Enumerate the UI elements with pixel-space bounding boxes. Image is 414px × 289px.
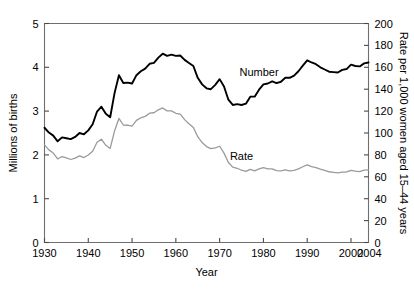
right-axis-tick-label: 20 <box>375 215 387 227</box>
left-axis-tick-label: 5 <box>32 18 38 30</box>
plot-frame <box>45 24 369 243</box>
y-axis-title: Millions of births <box>7 93 19 172</box>
x-axis-tick-label: 1960 <box>164 247 188 259</box>
right-axis-tick-label: 80 <box>375 149 387 161</box>
x-axis-tick-label: 1990 <box>295 247 319 259</box>
rate-series-label: Rate <box>230 150 253 162</box>
x-axis-tick-label: 1980 <box>251 247 275 259</box>
right-axis-tick-label: 40 <box>375 193 387 205</box>
x-axis-tick-label: 1940 <box>76 247 100 259</box>
series-line-rate <box>45 108 369 173</box>
x-axis-tick-label: 1950 <box>120 247 144 259</box>
number-series-label: Number <box>239 66 278 78</box>
right-axis-tick-label: 180 <box>375 39 393 51</box>
left-axis-tick-label: 3 <box>32 105 38 117</box>
right-axis-tick-label: 100 <box>375 127 393 139</box>
x-axis-tick-label: 1930 <box>32 247 56 259</box>
chart-canvas: 0123450204060801001201401601802001930194… <box>0 0 414 289</box>
x-axis-tick-label: 1970 <box>207 247 231 259</box>
right-axis-tick-label: 200 <box>375 18 393 30</box>
x-axis-title: Year <box>195 266 218 278</box>
birth-number-and-rate-chart: 0123450204060801001201401601802001930194… <box>0 0 414 289</box>
series-line-number <box>45 54 369 142</box>
right-axis-tick-label: 60 <box>375 171 387 183</box>
left-axis-tick-label: 4 <box>32 61 38 73</box>
x-axis-end-label: 2004 <box>357 247 381 259</box>
left-axis-tick-label: 2 <box>32 149 38 161</box>
y2-axis-title: Rate per 1,000 women aged 15–44 years <box>398 32 410 235</box>
right-axis-tick-label: 160 <box>375 61 393 73</box>
left-axis-tick-label: 1 <box>32 193 38 205</box>
right-axis-tick-label: 140 <box>375 83 393 95</box>
right-axis-tick-label: 120 <box>375 105 393 117</box>
